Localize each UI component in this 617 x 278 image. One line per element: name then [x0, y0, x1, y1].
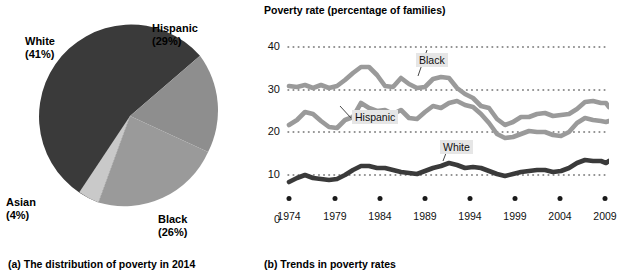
x-tick-dot-1994 — [468, 196, 473, 201]
pie-label-white-name: White — [25, 35, 55, 47]
x-tick-label-1989: 1989 — [413, 210, 436, 222]
panel-trends-in-poverty-rates: Poverty rate (percentage of families) — [258, 0, 609, 278]
x-tick-label-2004: 2004 — [548, 210, 571, 222]
x-tick-label-1984: 1984 — [368, 210, 391, 222]
y-tick-10: 10 — [258, 168, 280, 180]
pie-label-black-pct: (26%) — [158, 226, 187, 239]
leader-line-hispanic — [340, 106, 351, 118]
x-tick-dot-1974 — [287, 196, 292, 201]
pie-chart-svg — [36, 22, 224, 210]
x-tick-label-1994: 1994 — [458, 210, 481, 222]
pie-chart — [36, 22, 224, 210]
pie-label-white: White (41%) — [25, 35, 55, 61]
pie-label-hispanic: Hispanic (29%) — [152, 22, 198, 48]
y-tick-30: 30 — [258, 83, 280, 95]
line-chart: 40 30 20 10 0 Black Hispanic White — [258, 18, 609, 218]
pie-label-hispanic-name: Hispanic — [152, 22, 198, 34]
series-label-black: Black — [416, 53, 448, 67]
series-label-hispanic: Hispanic — [352, 110, 398, 124]
x-tick-dot-2004 — [558, 196, 563, 201]
pie-label-asian-name: Asian — [6, 196, 36, 208]
panel-distribution-of-poverty: White (41%) Hispanic (29%) Asian (4%) Bl… — [0, 0, 258, 278]
gridlines — [288, 47, 609, 175]
line-chart-title: Poverty rate (percentage of families) — [264, 4, 445, 16]
line-series-black — [289, 67, 609, 125]
panel-a-caption: (a) The distribution of poverty in 2014 — [8, 258, 195, 270]
x-axis-tick-marks — [258, 196, 609, 208]
series-label-white: White — [440, 140, 473, 154]
line-series-hispanic — [289, 101, 609, 138]
pie-label-black-name: Black — [158, 213, 187, 225]
pie-label-asian-pct: (4%) — [6, 209, 36, 222]
line-chart-svg — [258, 18, 609, 218]
x-tick-label-1979: 1979 — [323, 210, 346, 222]
pie-label-black: Black (26%) — [158, 213, 187, 239]
x-tick-label-1999: 1999 — [503, 210, 526, 222]
pie-label-white-pct: (41%) — [25, 48, 55, 61]
x-tick-label-1974: 1974 — [277, 210, 300, 222]
x-tick-dot-1999 — [513, 196, 518, 201]
x-tick-dot-1984 — [378, 196, 383, 201]
pie-label-asian: Asian (4%) — [6, 196, 36, 222]
line-series-white — [289, 160, 609, 182]
x-tick-dot-2009 — [603, 196, 608, 201]
x-tick-dot-1989 — [423, 196, 428, 201]
x-axis-tick-labels: 1974 1979 1984 1989 1994 1999 2004 2009 — [258, 210, 609, 226]
pie-label-hispanic-pct: (29%) — [152, 35, 198, 48]
x-tick-label-2009: 2009 — [593, 210, 616, 222]
y-tick-20: 20 — [258, 125, 280, 137]
x-tick-dot-1979 — [333, 196, 338, 201]
y-tick-40: 40 — [258, 40, 280, 52]
panel-b-caption: (b) Trends in poverty rates — [264, 258, 396, 270]
